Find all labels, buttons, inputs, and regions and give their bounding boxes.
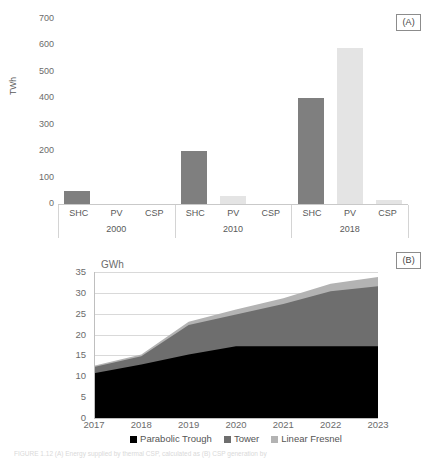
panel-a-y-tick: 300 (22, 120, 54, 129)
panel-b-y-axis-line (94, 272, 95, 419)
panel-a-y-tick: 200 (22, 146, 54, 155)
panel-a-bar-shc[interactable] (298, 98, 324, 204)
panel-a-group-labels: 200020102018 (58, 221, 408, 238)
panel-a-category-label: CSP (262, 205, 281, 221)
panel-b-legend-swatch (130, 436, 137, 443)
panel-b-legend-item[interactable]: Tower (224, 434, 259, 444)
panel-a-y-tick: 500 (22, 67, 54, 76)
panel-a-bar-group (175, 19, 292, 204)
figure-container: (A) TWh 7006005004003002001000 SHCPVCSPS… (0, 0, 429, 461)
panel-a-separator (175, 205, 176, 238)
panel-b-legend-label: Linear Fresnel (281, 434, 342, 444)
panel-a-category-label: SHC (303, 205, 322, 221)
panel-b-y-tick: 10 (62, 371, 86, 381)
panel-b-area-series (94, 272, 378, 418)
panel-b-y-tick: 30 (62, 288, 86, 298)
panel-b-x-tick: 2019 (169, 419, 209, 431)
panel-b-legend: Parabolic TroughTowerLinear Fresnel (94, 432, 378, 446)
panel-a-y-tick: 400 (22, 93, 54, 102)
panel-a-bar-pv[interactable] (220, 196, 246, 204)
panel-b-y-tick: 20 (62, 330, 86, 340)
panel-a-y-axis-label: TWh (8, 77, 18, 95)
panel-a-bar-pv[interactable] (337, 48, 363, 204)
panel-b-x-tick: 2018 (121, 419, 161, 431)
panel-b-x-tick: 2023 (358, 419, 398, 431)
panel-a-separator (58, 205, 59, 238)
panel-b-unit-label: GWh (101, 259, 124, 270)
panel-a-category-label: PV (227, 205, 239, 221)
panel-b-plot-area (94, 272, 378, 418)
panel-a-bar-group (291, 19, 408, 204)
panel-a-category-labels: SHCPVCSPSHCPVCSPSHCPVCSP (58, 205, 408, 221)
panel-a-bars (58, 19, 408, 204)
panel-a-separator (408, 205, 409, 238)
panel-b-x-tick: 2022 (311, 419, 351, 431)
panel-a-category-label: SHC (186, 205, 205, 221)
panel-b-tag: (B) (396, 252, 421, 269)
panel-a-y-tick: 100 (22, 173, 54, 182)
panel-a-category-group: SHCPVCSP (291, 205, 408, 221)
figure-caption: FIGURE 1.12 (A) Energy supplied by therm… (14, 449, 416, 458)
panel-a-category-label: PV (344, 205, 356, 221)
panel-a-category-label: SHC (69, 205, 88, 221)
panel-b-legend-label: Parabolic Trough (140, 434, 212, 444)
panel-a-group-label: 2000 (58, 221, 175, 238)
panel-a-category-group: SHCPVCSP (175, 205, 292, 221)
panel-a-bar-group (58, 19, 175, 204)
panel-a-y-tick: 700 (22, 14, 54, 23)
panel-b-legend-swatch (224, 436, 231, 443)
panel-b-x-tick: 2017 (74, 419, 114, 431)
panel-b-legend-label: Tower (234, 434, 259, 444)
panel-a-category-label: PV (111, 205, 123, 221)
panel-b-legend-item[interactable]: Linear Fresnel (271, 434, 342, 444)
panel-a-category-group: SHCPVCSP (58, 205, 175, 221)
panel-a-bar-shc[interactable] (64, 191, 90, 204)
panel-b-legend-swatch (271, 436, 278, 443)
panel-a-y-tick: 600 (22, 40, 54, 49)
panel-a-y-tick: 0 (22, 199, 54, 208)
panel-b-legend-item[interactable]: Parabolic Trough (130, 434, 212, 444)
panel-b-y-tick: 35 (62, 267, 86, 277)
panel-b-y-tick: 15 (62, 350, 86, 360)
panel-b-y-tick: 25 (62, 309, 86, 319)
panel-a-group-label: 2018 (291, 221, 408, 238)
panel-a-bar-shc[interactable] (181, 151, 207, 204)
panel-b-x-tick: 2021 (263, 419, 303, 431)
panel-a-group-label: 2010 (175, 221, 292, 238)
chart-panel-a: (A) TWh 7006005004003002001000 SHCPVCSPS… (0, 0, 429, 238)
panel-a-separator (291, 205, 292, 238)
panel-b-x-tick: 2020 (216, 419, 256, 431)
panel-a-category-label: CSP (378, 205, 397, 221)
panel-a-category-label: CSP (145, 205, 164, 221)
panel-b-y-tick: 5 (62, 392, 86, 402)
panel-a-bar-csp[interactable] (376, 200, 402, 204)
